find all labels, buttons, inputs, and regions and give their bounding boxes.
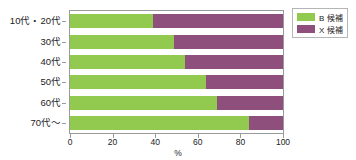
bar-segment — [217, 96, 283, 110]
x-axis-tick-label: 100 — [276, 137, 290, 147]
bars-layer — [70, 11, 283, 133]
x-axis-tick-label: 20 — [108, 137, 117, 147]
bar-row — [70, 14, 283, 28]
bar-segment — [174, 35, 283, 49]
legend-swatch-icon — [297, 25, 315, 33]
bar-segment — [70, 55, 185, 69]
bar-segment — [249, 116, 283, 130]
y-axis-labels: 10代・20代30代40代50代60代70代〜 — [0, 11, 66, 133]
y-axis-label: 60代 — [40, 96, 61, 110]
bar-row — [70, 96, 283, 110]
legend-label: X 候補 — [319, 24, 343, 35]
y-axis-tick — [62, 42, 66, 43]
x-axis-tick-label: 40 — [150, 137, 159, 147]
bar-segment — [70, 14, 153, 28]
legend-label: B 候補 — [319, 12, 343, 23]
bar-segment — [153, 14, 283, 28]
y-axis-tick — [62, 82, 66, 83]
bar-row — [70, 55, 283, 69]
bar-segment — [70, 96, 217, 110]
bar-row — [70, 75, 283, 89]
x-axis-title: % — [0, 148, 356, 158]
y-axis-label: 10代・20代 — [10, 14, 61, 28]
y-axis-tick — [62, 103, 66, 104]
bar-segment — [70, 75, 206, 89]
y-axis-tick — [62, 123, 66, 124]
y-axis-label: 30代 — [40, 35, 61, 49]
legend-item[interactable]: B 候補 — [297, 12, 343, 22]
y-axis-tick — [62, 62, 66, 63]
legend-swatch-icon — [297, 13, 315, 21]
y-axis-label: 50代 — [40, 75, 61, 89]
bar-segment — [185, 55, 283, 69]
chart-legend: B 候補X 候補 — [292, 8, 348, 38]
bar-row — [70, 116, 283, 130]
y-axis-label: 40代 — [40, 55, 61, 69]
bar-row — [70, 35, 283, 49]
bar-segment — [70, 116, 249, 130]
x-axis-tick-label: 80 — [236, 137, 245, 147]
y-axis-tick — [62, 21, 66, 22]
x-axis-tick-label: 0 — [68, 137, 73, 147]
bar-segment — [70, 35, 174, 49]
y-axis-label: 70代〜 — [30, 116, 61, 130]
x-axis-tick-label: 60 — [193, 137, 202, 147]
stacked-bar-chart: 10代・20代30代40代50代60代70代〜 020406080100 % B… — [0, 0, 356, 160]
bar-segment — [206, 75, 283, 89]
legend-item[interactable]: X 候補 — [297, 24, 343, 34]
